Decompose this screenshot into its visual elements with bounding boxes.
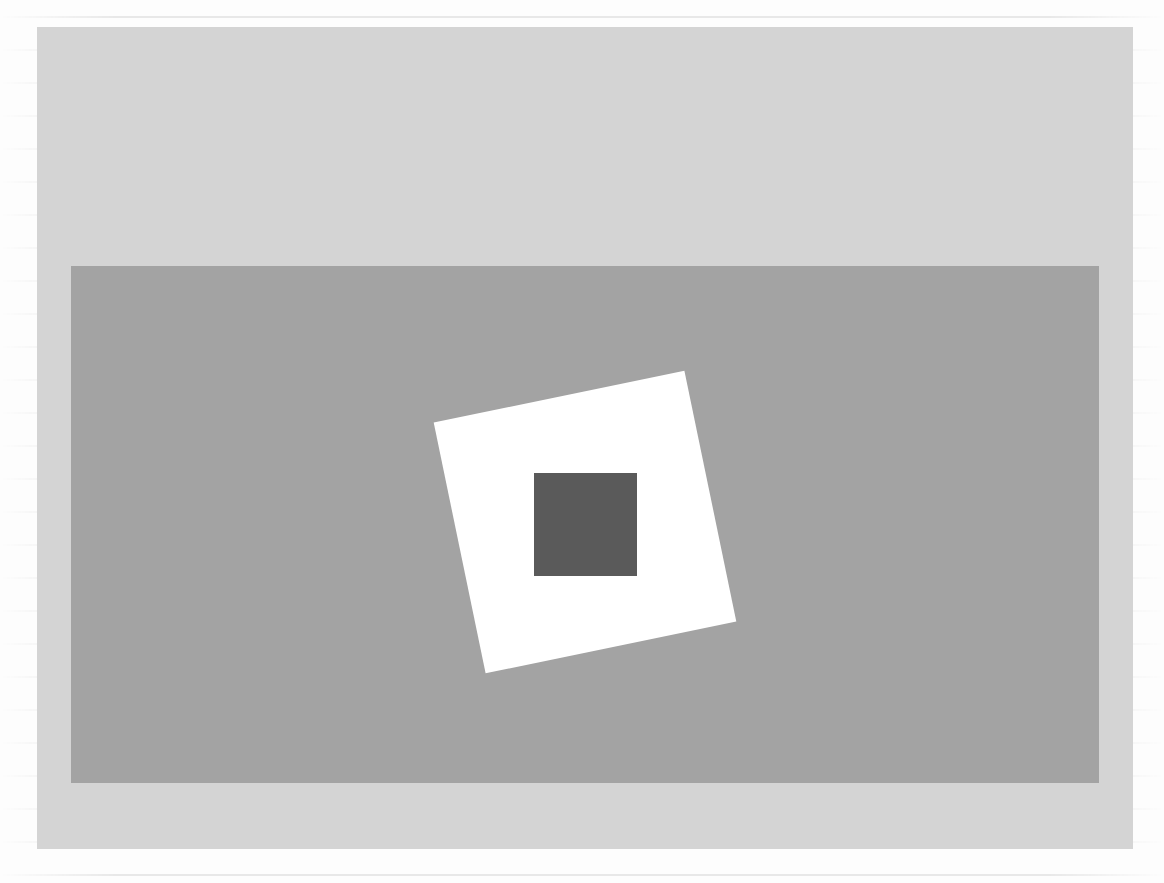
scanned-page [0,0,1164,883]
game-window [37,27,1133,849]
center-square [534,473,637,576]
game-canvas[interactable] [71,266,1099,783]
